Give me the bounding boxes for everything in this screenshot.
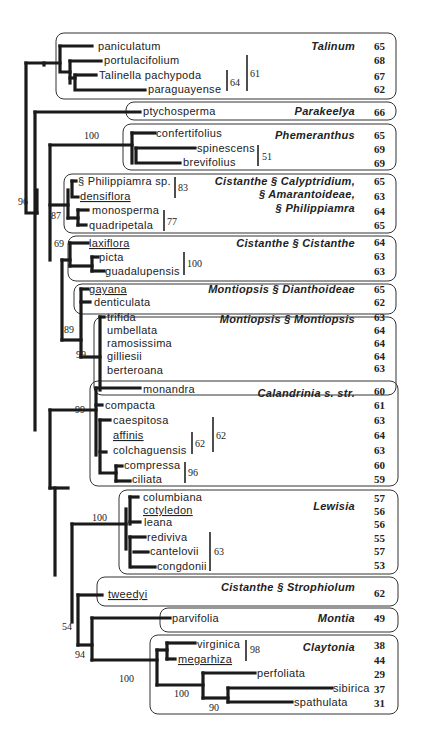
support-value: 96 (18, 196, 28, 207)
taxon-label: berteroana (107, 364, 164, 376)
group-label-cistanthe-calyptridium: Cistanthe § Calyptridium, (215, 175, 355, 187)
taxon-label: picta (99, 251, 124, 263)
group-label-cistanthe-cistanthe: Cistanthe § Cistanthe (236, 237, 355, 249)
chromosome-value: 69 (374, 157, 386, 169)
chromosome-value: 65 (374, 40, 386, 52)
chromosome-value: 53 (374, 559, 386, 571)
chromosome-value: 56 (374, 518, 386, 530)
group-label-cistanthe-calyptridium: § Philippiamra (275, 202, 355, 214)
taxon-label: § Philippiamra sp. (78, 175, 171, 187)
support-value: 90 (209, 702, 219, 713)
chromosome-value: 63 (374, 265, 386, 277)
group-label-montia: Montia (318, 612, 355, 624)
group-label-montiopsis-montiopsis: Montiopsis § Montiopsis (220, 313, 355, 325)
taxon-label: parvifolia (172, 612, 220, 624)
taxon-label: ptychosperma (143, 105, 216, 117)
taxon-label: confertifolius (156, 127, 222, 139)
taxon-label: cantelovii (150, 545, 199, 557)
taxon-label: densiflora (80, 190, 131, 202)
chromosome-value: 64 (374, 236, 386, 248)
chromosome-value: 63 (374, 250, 386, 262)
support-value: 99 (76, 349, 86, 360)
chromosome-value: 38 (374, 639, 386, 651)
taxon-label: compressa (124, 459, 181, 471)
chromosome-value: 61 (374, 399, 385, 411)
taxon-label: colchaguensis (113, 444, 187, 456)
support-value: 89 (64, 324, 74, 335)
taxon-label: spathulata (294, 696, 348, 708)
support-value: 63 (214, 546, 224, 557)
taxon-label: gayana (89, 283, 127, 295)
support-value: 62 (216, 430, 226, 441)
support-value: 77 (167, 216, 177, 227)
taxon-label: columbiana (143, 491, 203, 503)
taxon-label: denticulata (94, 296, 151, 308)
support-value: 51 (262, 151, 272, 162)
tree-branches (26, 46, 332, 702)
support-value: 83 (178, 182, 188, 193)
chromosome-value: 63 (374, 190, 386, 202)
group-label-phemeranthus: Phemeranthus (275, 129, 355, 141)
chromosome-value: 55 (374, 532, 386, 544)
support-value: 100 (84, 130, 99, 141)
chromosome-value: 63 (374, 414, 386, 426)
support-value: 62 (195, 438, 205, 449)
group-label-talinum: Talinum (311, 40, 355, 52)
taxon-label: tweedyi (108, 588, 147, 600)
chromosome-value: 29 (374, 668, 386, 680)
chromosome-value: 62 (374, 296, 386, 308)
chromosome-value: 65 (374, 283, 386, 295)
chromosome-value: 59 (374, 473, 386, 485)
taxon-label: monosperma (92, 204, 160, 216)
taxon-label: laxiflora (89, 237, 130, 249)
taxon-label: trifida (107, 311, 137, 323)
chromosome-value: 64 (374, 337, 386, 349)
group-label-montiopsis-dianthoideae: Montiopsis § Dianthoideae (208, 283, 355, 295)
taxon-label: affinis (113, 429, 144, 441)
taxon-label: gilliesii (107, 350, 142, 362)
chromosome-value: 64 (374, 205, 386, 217)
taxon-label: guadalupensis (105, 265, 180, 277)
chromosome-value: 63 (374, 444, 386, 456)
taxon-label: perfoliata (257, 667, 306, 679)
chromosome-value: 60 (374, 385, 386, 397)
support-value: 87 (51, 210, 61, 221)
support-value: 98 (250, 644, 260, 655)
group-label-cistanthe-strophiolum: Cistanthe § Strophiolum (221, 581, 355, 593)
taxon-label: monandra (143, 383, 196, 395)
chromosome-value: 63 (374, 311, 386, 323)
chromosome-value: 67 (374, 70, 386, 82)
taxon-label: ciliata (132, 473, 163, 485)
chromosome-value: 44 (374, 654, 386, 666)
group-label-cistanthe-calyptridium: § Amarantoideae, (258, 188, 355, 200)
support-value: 100 (187, 258, 202, 269)
chromosome-value: 56 (374, 505, 386, 517)
support-value: 64 (230, 77, 240, 88)
chromosome-value: 31 (374, 697, 385, 709)
chromosome-value: 49 (374, 612, 386, 624)
taxon-label: leana (144, 516, 173, 528)
chromosome-value: 68 (374, 54, 386, 66)
taxon-label: paraguayense (148, 83, 221, 95)
taxon-label: caespitosa (113, 414, 169, 426)
taxon-label: compacta (105, 399, 156, 411)
group-label-lewisia: Lewisia (313, 500, 355, 512)
support-value: 54 (62, 621, 72, 632)
chromosome-value: 57 (374, 492, 386, 504)
taxon-label: umbellata (107, 324, 158, 336)
chromosome-value: 66 (374, 106, 386, 118)
chromosome-value: 64 (374, 324, 386, 336)
support-value: 94 (75, 649, 85, 660)
support-value: 100 (92, 512, 107, 523)
chromosome-value: 64 (374, 429, 386, 441)
support-value: 100 (119, 673, 134, 684)
chromosome-value: 63 (374, 362, 386, 374)
taxon-label: Talinella pachypoda (99, 69, 202, 81)
group-label-claytonia: Claytonia (303, 641, 355, 653)
support-value: 99 (75, 404, 85, 415)
taxon-label: quadripetala (89, 219, 154, 231)
taxon-label: megarhiza (178, 653, 233, 665)
support-value: 61 (250, 68, 260, 79)
taxon-label: spinescens (197, 142, 255, 154)
support-value: 100 (174, 688, 189, 699)
